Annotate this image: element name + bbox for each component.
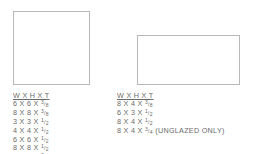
square-tile-outline [13,11,90,85]
rectangle-tile-sizes: W X H X T 8 X 4 X 3/8 6 X 3 X 1/2 8 X 4 … [117,92,225,136]
size-row: 6 X 6 X 3/4 [13,153,50,154]
rectangle-tile-outline [137,35,240,85]
square-tile-sizes: W X H X T 6 X 6 X 3/8 8 X 8 X 3/8 3 X 3 … [13,92,50,154]
unglazed-note: (UNGLAZED ONLY) [155,126,224,135]
size-row: 8 X 4 X 3/4 (UNGLAZED ONLY) [117,127,225,136]
